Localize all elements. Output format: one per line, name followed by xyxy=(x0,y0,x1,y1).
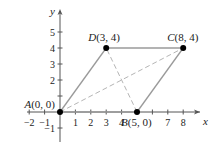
x-axis-label: x xyxy=(202,115,208,127)
vertex-D-dot xyxy=(103,45,109,51)
y-tick-label: 4 xyxy=(50,43,55,54)
vertex-A-dot xyxy=(57,109,63,115)
diagonal-BD xyxy=(106,48,137,112)
parallelogram xyxy=(60,48,183,112)
y-tick-label: 2 xyxy=(50,75,55,86)
side-DA xyxy=(60,48,106,112)
vertex-B-dot xyxy=(134,109,140,115)
x-tick-label: 8 xyxy=(181,117,186,128)
x-tick-label: 7 xyxy=(165,117,170,128)
vertex-B-label: B(5, 0) xyxy=(121,116,152,129)
labels: xy−2−1123478−12345A(0, 0)B(5, 0)C(8, 4)D… xyxy=(23,5,208,134)
x-tick-label: −2 xyxy=(24,117,35,128)
x-tick-label: 3 xyxy=(104,117,109,128)
diagram-svg: xy−2−1123478−12345A(0, 0)B(5, 0)C(8, 4)D… xyxy=(0,0,221,152)
y-tick-label: 5 xyxy=(50,27,55,38)
vertex-A-label: A(0, 0) xyxy=(23,98,55,111)
side-BC xyxy=(137,48,183,112)
x-tick-label: 1 xyxy=(73,117,78,128)
vertex-C-label: C(8, 4) xyxy=(167,31,199,44)
vertex-D-label: D(3, 4) xyxy=(87,31,120,44)
y-tick-label: −1 xyxy=(44,123,55,134)
vertex-C-dot xyxy=(180,45,186,51)
x-tick-label: 2 xyxy=(88,117,93,128)
y-tick-label: 3 xyxy=(50,59,55,70)
y-axis-label: y xyxy=(49,5,55,17)
coordinate-diagram: xy−2−1123478−12345A(0, 0)B(5, 0)C(8, 4)D… xyxy=(0,0,221,152)
